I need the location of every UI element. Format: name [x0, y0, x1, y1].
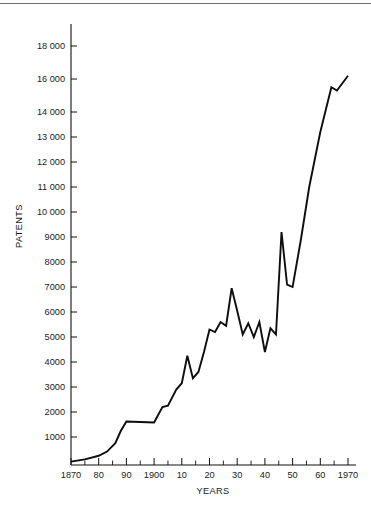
y-tick-label: 4000: [45, 357, 65, 367]
x-axis-ticks: 1870809019001020304050601970: [61, 458, 358, 480]
y-tick-label: 10 000: [37, 207, 65, 217]
y-tick-label: 2000: [45, 407, 65, 417]
y-tick-label: 7000: [45, 282, 65, 292]
x-tick-label: 10: [177, 470, 187, 480]
x-tick-label: 1870: [61, 470, 81, 480]
y-tick-label: 1000: [45, 432, 65, 442]
y-tick-label: 16 000: [37, 74, 65, 84]
x-tick-label: 60: [315, 470, 325, 480]
x-axis-title: YEARS: [196, 486, 229, 496]
y-tick-label: 12 000: [37, 157, 65, 167]
y-tick-label: 11 000: [38, 182, 65, 192]
x-tick-label: 50: [287, 470, 297, 480]
y-tick-label: 9000: [45, 232, 65, 242]
x-tick-label: 1900: [144, 470, 164, 480]
y-tick-label: 8000: [45, 257, 65, 267]
y-axis-title: PATENTS: [14, 204, 24, 248]
x-tick-label: 90: [121, 470, 131, 480]
x-tick-label: 1970: [338, 470, 358, 480]
figure-container: 10002000300040005000600070008000900010 0…: [0, 0, 371, 505]
patents-line-chart: 10002000300040005000600070008000900010 0…: [0, 0, 371, 505]
y-tick-label: 13 000: [37, 132, 65, 142]
x-tick-label: 30: [232, 470, 242, 480]
x-tick-label: 20: [204, 470, 214, 480]
x-tick-label: 40: [260, 470, 270, 480]
y-tick-label: 6000: [45, 307, 65, 317]
y-tick-label: 5000: [45, 332, 65, 342]
y-tick-label: 14 000: [37, 107, 65, 117]
y-tick-label: 18 000: [37, 41, 65, 51]
data-series-line: [71, 76, 348, 462]
y-tick-label: 3000: [45, 382, 65, 392]
x-tick-label: 80: [94, 470, 104, 480]
